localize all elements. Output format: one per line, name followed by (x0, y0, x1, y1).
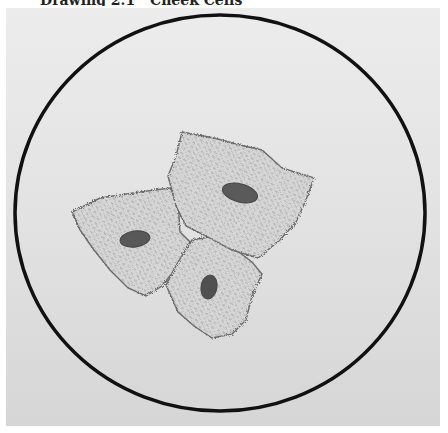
cell-drawing (0, 0, 448, 433)
